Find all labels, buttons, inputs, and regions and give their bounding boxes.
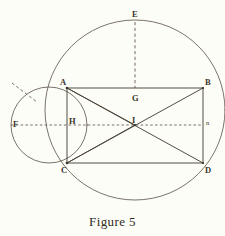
point-label-I: I xyxy=(132,116,136,125)
point-label-B: B xyxy=(205,78,211,87)
point-label-H: H xyxy=(69,117,76,126)
chord-AI xyxy=(67,88,135,125)
point-label-G: G xyxy=(132,94,139,103)
point-label-E: E xyxy=(132,10,138,19)
chord-CI xyxy=(67,125,135,163)
figure-caption: Figure 5 xyxy=(0,214,225,230)
dashed-pointer-line xyxy=(12,83,37,102)
point-label-A: A xyxy=(60,78,66,87)
geometric-figure-svg xyxy=(0,0,225,236)
vertex-dot-A xyxy=(66,87,69,90)
vertex-dot-D xyxy=(202,162,204,164)
point-label-D: D xyxy=(205,166,211,175)
vertex-dot-B xyxy=(202,87,204,89)
vertex-dot-C xyxy=(66,162,69,165)
point-label-F: F xyxy=(13,120,18,129)
figure-page: E A B G F H I n C D Figure 5 xyxy=(0,0,225,236)
point-label-C: C xyxy=(61,166,67,175)
point-label-n: n xyxy=(206,120,209,127)
